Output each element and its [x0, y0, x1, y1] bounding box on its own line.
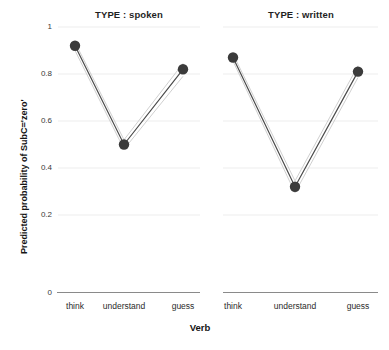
gridlines-right	[223, 27, 378, 215]
x-tick-label-left-guess: guess	[161, 301, 205, 311]
data-point-left-think	[70, 41, 80, 51]
x-tick-label-right-understand: understand	[262, 301, 328, 311]
data-point-right-think	[228, 52, 238, 62]
confidence-band-right	[233, 54, 358, 193]
data-point-right-understand	[290, 182, 300, 192]
data-point-left-understand	[119, 139, 129, 149]
x-axis-title: Verb	[170, 322, 230, 333]
series-line-left	[75, 46, 183, 145]
data-point-right-guess	[353, 66, 363, 76]
data-point-left-guess	[178, 64, 188, 74]
confidence-band-left	[75, 42, 183, 149]
x-tick-label-left-understand: understand	[91, 301, 157, 311]
chart-container: Predicted probability of SubC='zero' 1 0…	[0, 0, 389, 350]
x-tick-label-right-think: think	[211, 301, 255, 311]
x-tick-label-right-guess: guess	[336, 301, 380, 311]
plot-svg	[0, 0, 389, 350]
series-line-right	[233, 58, 358, 187]
